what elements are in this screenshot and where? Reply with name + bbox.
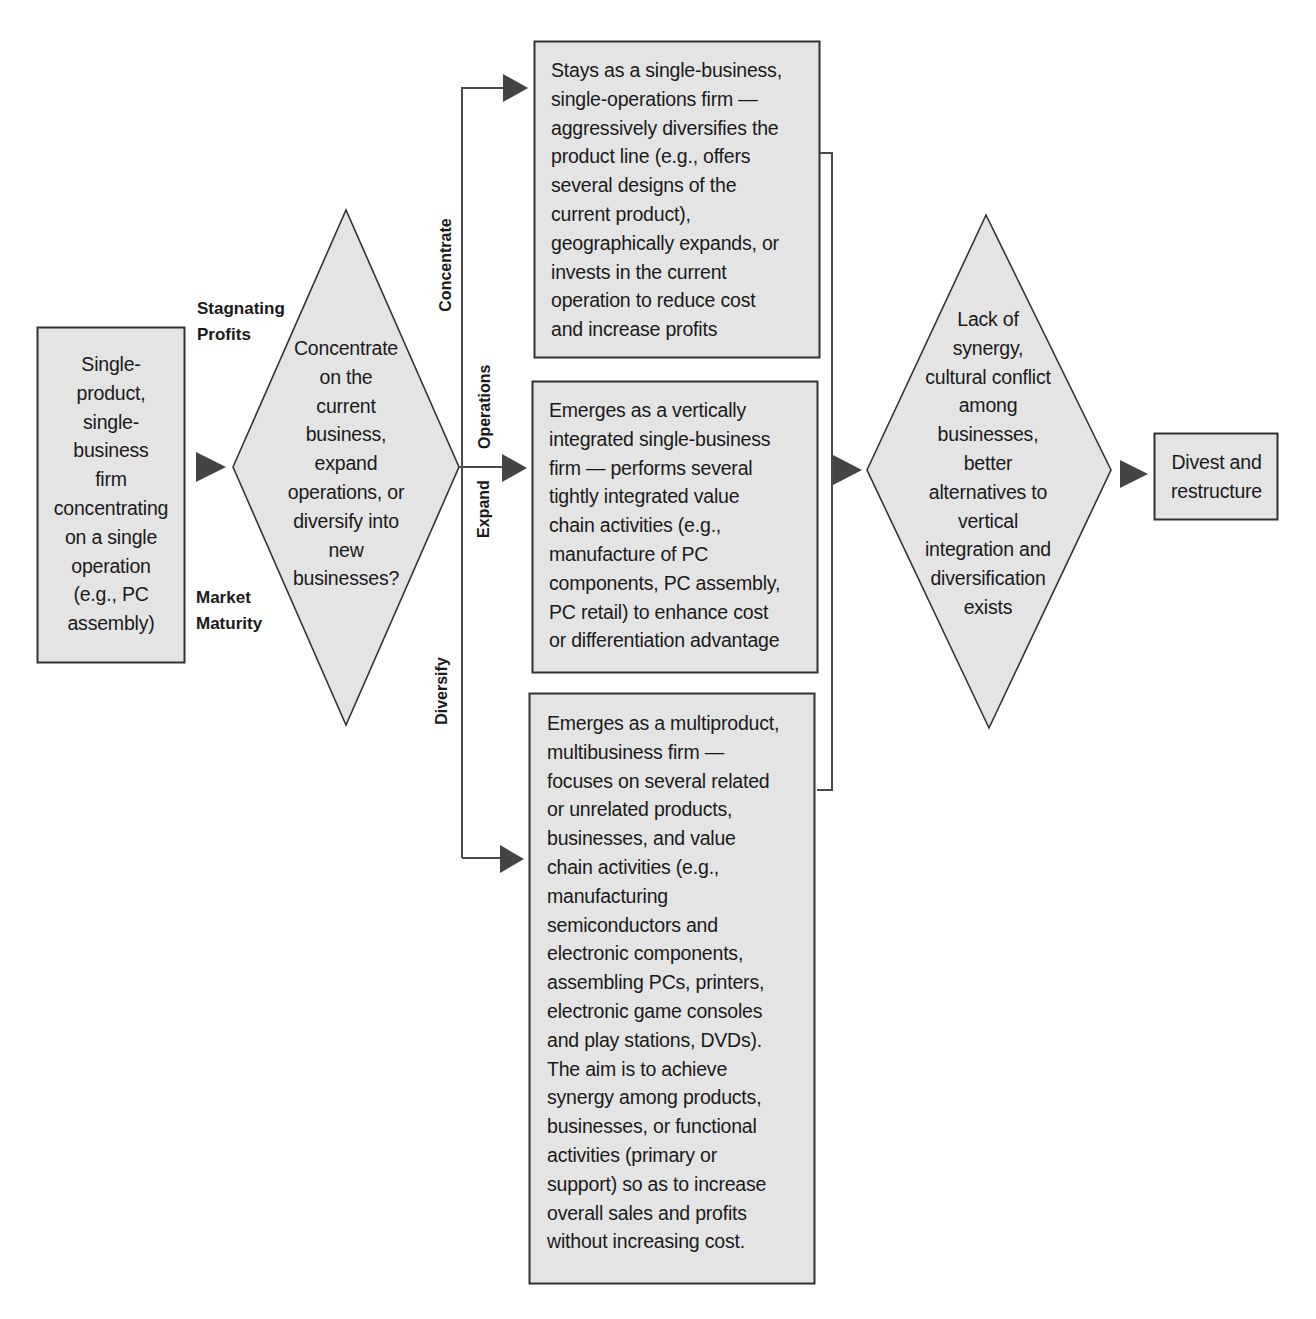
text-line: semiconductors and xyxy=(547,911,815,940)
text-line: invests in the current xyxy=(551,258,819,287)
text-line: aggressively diversifies the xyxy=(551,114,819,143)
outcome-concentrate-text: Stays as a single-business, single-opera… xyxy=(551,56,819,344)
text-line: concentrating xyxy=(37,494,185,523)
arrow-right-icon xyxy=(196,452,226,482)
text-line: Stagnating xyxy=(197,296,285,322)
text-line: integration and xyxy=(912,535,1064,564)
text-line: activities (primary or xyxy=(547,1141,815,1170)
text-line: businesses, and value xyxy=(547,824,815,853)
text-line: diversify into xyxy=(270,507,422,536)
arrow-right-icon xyxy=(833,455,862,485)
branch-label-diversify: Diversify xyxy=(433,651,451,731)
branch-label-concentrate: Concentrate xyxy=(437,210,455,320)
text-line: Market xyxy=(196,585,262,611)
text-line: Divest and xyxy=(1155,448,1278,477)
text-line: exists xyxy=(912,593,1064,622)
text-line: Maturity xyxy=(196,611,262,637)
text-line: Lack of xyxy=(912,305,1064,334)
text-line: tightly integrated value xyxy=(549,482,817,511)
end-box-text: Divest and restructure xyxy=(1155,448,1278,506)
text-line: chain activities (e.g., xyxy=(549,511,817,540)
decision-1-text: Concentrate on the current business, exp… xyxy=(270,334,422,593)
text-line: firm — performs several xyxy=(549,454,817,483)
arrow-right-icon xyxy=(500,845,524,873)
text-line: Single- xyxy=(37,350,185,379)
text-line: current product), xyxy=(551,200,819,229)
text-line: components, PC assembly, xyxy=(549,569,817,598)
text-line: businesses? xyxy=(270,564,422,593)
text-line: PC retail) to enhance cost xyxy=(549,598,817,627)
text-line: cultural conflict xyxy=(912,363,1064,392)
text-line: focuses on several related xyxy=(547,767,815,796)
text-line: on a single xyxy=(37,523,185,552)
text-line: operation xyxy=(37,552,185,581)
text-line: assembling PCs, printers, xyxy=(547,968,815,997)
text-line: electronic game consoles xyxy=(547,997,815,1026)
text-line: vertical xyxy=(912,507,1064,536)
text-line: without increasing cost. xyxy=(547,1227,815,1256)
text-line: synergy, xyxy=(912,334,1064,363)
text-line: electronic components, xyxy=(547,939,815,968)
text-line: operations, or xyxy=(270,478,422,507)
text-line: business xyxy=(37,436,185,465)
text-line: diversification xyxy=(912,564,1064,593)
text-line: product line (e.g., offers xyxy=(551,142,819,171)
text-line: businesses, xyxy=(912,420,1064,449)
text-line: support) so as to increase xyxy=(547,1170,815,1199)
text-line: Emerges as a multiproduct, xyxy=(547,709,815,738)
text-line: business, xyxy=(270,420,422,449)
text-line: Stays as a single-business, xyxy=(551,56,819,85)
text-line: (e.g., PC xyxy=(37,580,185,609)
text-line: single-operations firm — xyxy=(551,85,819,114)
text-line: chain activities (e.g., xyxy=(547,853,815,882)
text-line: businesses, or functional xyxy=(547,1112,815,1141)
text-line: expand xyxy=(270,449,422,478)
text-line: integrated single-business xyxy=(549,425,817,454)
text-line: multibusiness firm — xyxy=(547,738,815,767)
text-line: synergy among products, xyxy=(547,1083,815,1112)
branch-label-expand: Expand xyxy=(475,479,493,539)
text-line: and increase profits xyxy=(551,315,819,344)
outcome-expand-text: Emerges as a vertically integrated singl… xyxy=(549,396,817,655)
outcome-diversify-text: Emerges as a multiproduct, multibusiness… xyxy=(547,709,815,1256)
text-line: on the xyxy=(270,363,422,392)
decision-2-text: Lack of synergy, cultural conflict among… xyxy=(912,305,1064,622)
text-line: new xyxy=(270,536,422,565)
text-line: current xyxy=(270,392,422,421)
text-line: and play stations, DVDs). xyxy=(547,1026,815,1055)
text-line: restructure xyxy=(1155,477,1278,506)
text-line: manufacturing xyxy=(547,882,815,911)
text-line: or differentiation advantage xyxy=(549,626,817,655)
branch-label-operations: Operations xyxy=(476,369,494,449)
arrow-right-icon xyxy=(503,74,528,102)
text-line: The aim is to achieve xyxy=(547,1055,815,1084)
text-line: alternatives to xyxy=(912,478,1064,507)
text-line: Emerges as a vertically xyxy=(549,396,817,425)
arrow-right-icon xyxy=(1120,460,1148,488)
text-line: several designs of the xyxy=(551,171,819,200)
branch-connector-line xyxy=(462,88,505,858)
text-line: overall sales and profits xyxy=(547,1199,815,1228)
arrow-right-icon xyxy=(502,454,527,482)
start-box-text: Single- product, single- business firm c… xyxy=(37,350,185,638)
trigger-label-market-maturity: Market Maturity xyxy=(196,585,262,637)
text-line: geographically expands, or xyxy=(551,229,819,258)
text-line: among xyxy=(912,391,1064,420)
text-line: operation to reduce cost xyxy=(551,286,819,315)
text-line: better xyxy=(912,449,1064,478)
text-line: firm xyxy=(37,465,185,494)
text-line: single- xyxy=(37,408,185,437)
text-line: or unrelated products, xyxy=(547,795,815,824)
text-line: Concentrate xyxy=(270,334,422,363)
text-line: product, xyxy=(37,379,185,408)
text-line: assembly) xyxy=(37,609,185,638)
text-line: manufacture of PC xyxy=(549,540,817,569)
